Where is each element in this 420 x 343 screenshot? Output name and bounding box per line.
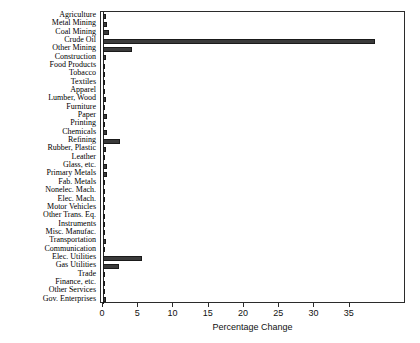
x-tick-mark <box>208 303 209 307</box>
bar <box>103 281 105 286</box>
bar <box>103 139 120 144</box>
bar <box>103 264 119 269</box>
x-tick-label: 15 <box>193 308 223 318</box>
bar <box>103 222 105 227</box>
x-tick-label: 5 <box>122 308 152 318</box>
bar <box>103 256 142 261</box>
bar-series <box>101 12 406 304</box>
bar <box>103 189 105 194</box>
bar <box>103 172 107 177</box>
bar <box>103 289 105 294</box>
category-label: Gov. Enterprises <box>0 295 96 303</box>
bar-chart: AgricultureMetal MiningCoal MiningCrude … <box>0 0 420 343</box>
bar <box>103 114 107 119</box>
bar <box>103 230 105 235</box>
x-tick-mark <box>349 303 350 307</box>
category-label: Nonelec. Mach. <box>0 186 96 194</box>
x-tick-label: 30 <box>298 308 328 318</box>
bar <box>103 180 105 185</box>
value-axis: Percentage Change 05101520253035 <box>100 303 405 343</box>
bar <box>103 55 106 60</box>
bar <box>103 130 107 135</box>
bar <box>103 89 105 94</box>
x-tick-label: 35 <box>334 308 364 318</box>
x-tick-label: 0 <box>87 308 117 318</box>
bar <box>103 272 105 277</box>
bar <box>103 105 105 110</box>
bar <box>103 122 105 127</box>
bar <box>103 247 105 252</box>
bar <box>103 297 106 302</box>
bar <box>103 39 375 44</box>
x-tick-mark <box>278 303 279 307</box>
bar <box>103 164 107 169</box>
category-axis-labels: AgricultureMetal MiningCoal MiningCrude … <box>0 11 96 303</box>
bar <box>103 155 105 160</box>
bar <box>103 147 106 152</box>
x-tick-label: 25 <box>263 308 293 318</box>
bar <box>103 22 107 27</box>
bar <box>103 30 109 35</box>
bar <box>103 80 105 85</box>
category-label: Other Trans. Eq. <box>0 211 96 219</box>
x-tick-mark <box>313 303 314 307</box>
x-tick-label: 10 <box>157 308 187 318</box>
x-tick-mark <box>102 303 103 307</box>
bar <box>103 205 105 210</box>
bar <box>103 14 106 19</box>
bar <box>103 197 105 202</box>
bar <box>103 97 106 102</box>
bar <box>103 72 105 77</box>
bar <box>103 239 106 244</box>
x-axis-title: Percentage Change <box>100 322 405 333</box>
plot-area <box>100 11 405 303</box>
x-tick-mark <box>137 303 138 307</box>
bar <box>103 47 132 52</box>
x-tick-label: 20 <box>228 308 258 318</box>
bar <box>103 64 105 69</box>
x-tick-mark <box>172 303 173 307</box>
bar <box>103 214 105 219</box>
x-tick-mark <box>243 303 244 307</box>
